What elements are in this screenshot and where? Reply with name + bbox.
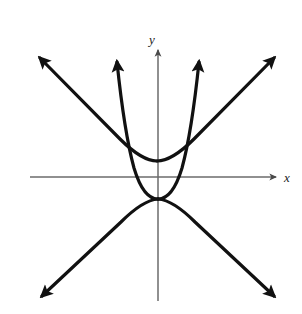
figure-background bbox=[0, 0, 302, 314]
y-axis-label: y bbox=[147, 32, 155, 47]
graph-canvas: x y bbox=[0, 0, 302, 314]
graph-figure: x y bbox=[0, 0, 302, 314]
x-axis-label: x bbox=[283, 170, 290, 185]
